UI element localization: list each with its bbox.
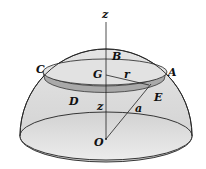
label-G: G xyxy=(93,68,102,81)
label-a: a xyxy=(135,102,142,115)
label-D: D xyxy=(68,95,79,108)
label-B: B xyxy=(111,50,121,63)
label-C: C xyxy=(36,63,45,76)
label-z-axis: z xyxy=(101,8,109,21)
hemisphere-diagram: z B C G r A E D z a O xyxy=(0,0,206,169)
label-A: A xyxy=(167,66,177,79)
origin-point xyxy=(105,138,107,140)
label-O: O xyxy=(94,136,104,149)
ring-top-ellipse xyxy=(43,59,167,85)
label-E: E xyxy=(153,91,163,104)
label-z-height: z xyxy=(96,100,104,113)
